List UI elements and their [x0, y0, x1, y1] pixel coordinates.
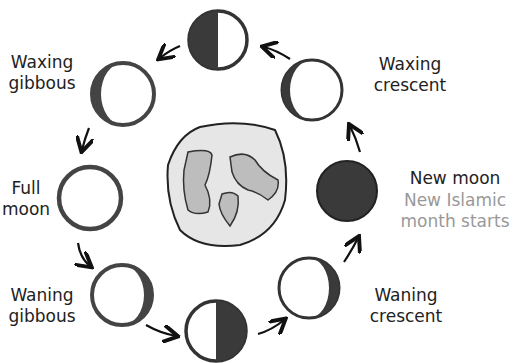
label-waxing-crescent: Waxing crescent: [362, 54, 458, 96]
label-full-moon: Full moon: [0, 178, 52, 220]
label-new-moon: New moon: [396, 168, 514, 189]
arrow-last-quarter-to-waning-crescent: [258, 320, 284, 334]
arrow-waxing-gibbous-to-full: [82, 128, 89, 150]
first-quarter-moon-icon: [189, 11, 247, 69]
full-moon-icon: [59, 167, 121, 229]
earth-icon: [168, 123, 287, 246]
arrow-first-quarter-to-waxing-gibbous: [160, 46, 180, 58]
new-moon-icon: [317, 161, 377, 221]
label-waning-gibbous: Waning gibbous: [4, 285, 80, 327]
waxing-crescent-moon-icon: [282, 60, 342, 120]
arrow-new-to-waxing-crescent: [350, 126, 360, 152]
waning-gibbous-moon-icon: [92, 265, 152, 325]
label-waning-crescent: Waning crescent: [358, 285, 454, 327]
label-new-islamic-month: New Islamic month starts: [396, 190, 514, 232]
arrow-waxing-crescent-to-first-quarter: [264, 47, 290, 59]
waning-crescent-moon-icon: [279, 258, 339, 318]
waxing-gibbous-moon-icon: [92, 63, 154, 125]
arrow-full-to-waning-gibbous: [78, 243, 90, 266]
arrow-waning-gibbous-to-last-quarter: [146, 325, 176, 336]
moon-phase-diagram: Waxing gibbous Waxing crescent Full moon…: [0, 0, 515, 363]
arrow-waning-crescent-to-new: [344, 238, 358, 262]
last-quarter-moon-icon: [186, 301, 246, 361]
label-waxing-gibbous: Waxing gibbous: [4, 52, 80, 94]
